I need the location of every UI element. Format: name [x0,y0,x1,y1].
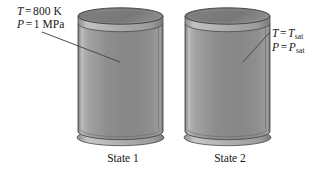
state-1-temperature-line: T=800 K [17,5,65,18]
state-2-temperature-subscript: sat [295,32,304,41]
thermodynamics-cylinder-figure: T=800 K P=1 MPa T=Tsat P=Psat State 1 St… [0,0,336,177]
cylinder-state-2 [184,8,271,146]
state-2-pressure-equals: = [279,41,289,53]
cylinder2-lid [185,8,270,24]
cylinder2-body [185,24,270,140]
state-1-conditions-label: T=800 K P=1 MPa [17,5,65,31]
state-2-temperature-equals: = [279,27,289,39]
state-2-conditions-label: T=Tsat P=Psat [272,27,305,55]
state-1-pressure-line: P=1 MPa [17,18,65,31]
cylinder1-lid [78,8,163,24]
cylinder1-body [78,24,163,140]
state-2-pressure-value: P [289,41,296,53]
state-1-pressure-value: 1 MPa [34,18,65,30]
caption-state-1: State 1 [93,152,153,164]
state-1-temperature-equals: = [24,5,34,17]
caption-state-2: State 2 [200,152,260,164]
state-2-pressure-line: P=Psat [272,41,305,55]
state-2-temperature-symbol: T [272,27,279,39]
state-2-temperature-line: T=Tsat [272,27,305,41]
cylinder-state-1 [77,8,164,146]
state-1-temperature-value: 800 K [33,5,62,17]
state-1-pressure-equals: = [24,18,34,30]
state-1-temperature-symbol: T [17,5,24,17]
state-2-temperature-value: T [288,27,295,39]
state-2-pressure-subscript: sat [296,46,305,55]
